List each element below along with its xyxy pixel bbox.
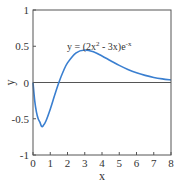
y-tick-label: 0.5 xyxy=(15,40,29,52)
x-axis-label: x xyxy=(99,169,105,183)
equation-part-1: y = (2x xyxy=(67,41,96,53)
x-tick-label: 4 xyxy=(99,157,105,169)
equation-superscript-2: -x xyxy=(126,40,132,48)
x-tick-label: 7 xyxy=(151,157,157,169)
x-tick-label: 6 xyxy=(134,157,140,169)
x-tick-label: 1 xyxy=(48,157,54,169)
y-tick-label: 0 xyxy=(24,77,30,89)
y-tick-label: -1 xyxy=(20,149,29,161)
x-tick-label: 0 xyxy=(30,157,36,169)
line-chart: 012345678 10.50-0.5-1 x y y = (2x2 - 3x)… xyxy=(0,0,182,185)
x-tick-label: 2 xyxy=(65,157,71,169)
function-curve xyxy=(33,50,171,127)
equation-part-2: - 3x)e xyxy=(99,41,126,53)
y-tick-label: -0.5 xyxy=(12,113,30,125)
y-axis-label: y xyxy=(3,80,17,86)
x-tick-label: 5 xyxy=(117,157,123,169)
x-tick-label: 8 xyxy=(168,157,174,169)
y-tick-label: 1 xyxy=(24,4,30,16)
x-tick-label: 3 xyxy=(82,157,88,169)
equation-annotation: y = (2x2 - 3x)e-x xyxy=(67,40,132,53)
